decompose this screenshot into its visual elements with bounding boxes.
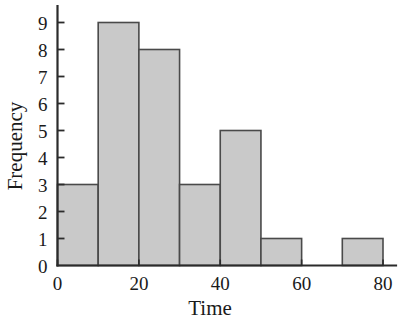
histogram-bar	[98, 23, 139, 266]
y-tick-label: 2	[38, 202, 48, 223]
histogram-bar	[261, 239, 302, 266]
histogram-bar	[180, 185, 221, 266]
histogram-bar	[342, 239, 383, 266]
y-tick-label: 8	[38, 40, 48, 61]
y-tick-label: 3	[38, 175, 48, 196]
y-axis-title: Frequency	[3, 101, 27, 190]
x-axis-title: Time	[188, 296, 232, 320]
y-tick-label: 7	[38, 67, 48, 88]
y-tick-label: 4	[38, 148, 48, 169]
x-tick-label: 40	[211, 273, 230, 294]
histogram-figure: 020406080 0123456789 Time Frequency	[0, 0, 399, 322]
x-tick-label: 80	[374, 273, 393, 294]
histogram-plot: 020406080 0123456789 Time Frequency	[0, 0, 399, 322]
x-tick-label: 60	[292, 273, 311, 294]
y-tick-label: 5	[38, 121, 48, 142]
y-tick-label: 0	[38, 256, 48, 277]
x-tick-label: 0	[53, 273, 63, 294]
x-tick-label: 20	[129, 273, 148, 294]
histogram-bar	[220, 131, 261, 266]
y-tick-label: 1	[38, 229, 48, 250]
histogram-bar	[58, 185, 99, 266]
histogram-bar	[139, 50, 180, 266]
y-tick-label: 9	[38, 13, 48, 34]
y-tick-label: 6	[38, 94, 48, 115]
